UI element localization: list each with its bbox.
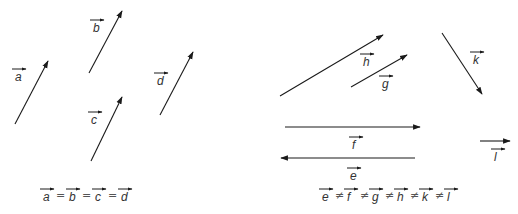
vector-letter: b [93,21,100,35]
vector-c-label: c [88,112,102,127]
vector-h-label: h [360,54,374,69]
vector-k: k [442,33,484,94]
vector-f: f [285,127,420,152]
vector-letter: h [397,190,404,204]
equation-operator: ≠ [435,189,444,202]
equation-operator: ≠ [410,189,419,202]
vector-l: l [480,141,510,164]
equation-operator: = [56,189,65,202]
inequality-equation: e≠f≠g≠h≠k≠l [319,189,458,204]
equal-vectors-panel: abcd [12,11,193,161]
vector-letter: h [363,55,370,69]
equation-term-f-label: f [344,189,358,204]
equation-term-g-label: g [369,189,383,204]
vector-letter: e [350,169,357,183]
vector-letter: k [473,53,480,67]
vector-letter: c [95,190,101,204]
vector-h: h [280,35,383,96]
equation-term-h-label: h [394,189,408,204]
vector-b-label: b [90,20,104,35]
equation-operator: ≠ [385,189,394,202]
vector-g-arrow [351,55,407,87]
vector-letter: d [121,190,128,204]
vector-letter: l [494,150,497,164]
equation-term-e-label: e [319,189,333,204]
equation-term-c-label: c [92,189,106,204]
vector-equality-diagram: abcd hgkfel a=b=c=d e≠f≠g≠h≠k≠l [0,0,518,214]
equation-operator: ≠ [335,189,344,202]
vector-letter: f [347,190,352,204]
equation-term-a-label: a [40,189,54,204]
vector-a: a [12,61,48,124]
vector-d-label: d [154,73,168,88]
vector-d: d [154,52,193,115]
vector-d-arrow [160,52,193,115]
unequal-vectors-panel: hgkfel [280,33,510,183]
equation-term-k-label: k [419,189,433,204]
vector-letter: e [322,190,329,204]
vector-letter: k [422,190,429,204]
vector-c: c [88,97,122,161]
equation-term-d-label: d [118,189,132,204]
equality-equation: a=b=c=d [40,189,132,204]
vector-letter: f [352,138,357,152]
vector-l-label: l [491,149,505,164]
vector-g-label: g [379,76,393,91]
equation-operator: = [82,189,91,202]
vector-letter: g [382,77,389,91]
vector-e: e [281,158,415,183]
vector-letter: a [43,190,50,204]
vector-letter: g [372,190,379,204]
vector-a-label: a [12,69,26,84]
vector-letter: c [91,113,97,127]
equation-operator: ≠ [360,189,369,202]
vector-letter: d [157,74,164,88]
vector-letter: l [447,190,450,204]
vector-c-arrow [91,97,122,161]
equation-term-b-label: b [66,189,80,204]
vector-f-label: f [349,137,363,152]
vector-e-label: e [347,168,361,183]
vector-letter: a [15,70,22,84]
vector-b: b [89,11,122,73]
equation-operator: = [108,189,117,202]
vector-g: g [351,55,407,91]
vector-letter: b [69,190,76,204]
equation-term-l-label: l [444,189,458,204]
vector-k-label: k [470,52,484,67]
